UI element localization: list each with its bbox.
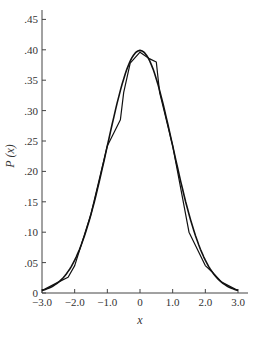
y-axis-label: P (x) [3, 144, 17, 168]
normal-curve-line [42, 50, 238, 290]
x-tick-label: −2.0 [65, 296, 85, 308]
y-tick-label: .20 [24, 165, 38, 177]
x-axis-label: x [136, 313, 143, 327]
y-tick-label: .35 [24, 74, 38, 86]
x-tick-label: 1.0 [166, 296, 180, 308]
y-tick-label: .05 [24, 257, 38, 269]
y-tick-label: .30 [24, 105, 38, 117]
y-tick-label: .45 [24, 13, 38, 25]
series-lines [42, 50, 238, 290]
y-tick-label: .40 [24, 44, 38, 56]
normal-distribution-chart: −3.0−2.0−1.001.02.03.00.05.10.15.20.25.3… [0, 0, 262, 342]
empirical-polygon-line [42, 52, 238, 290]
x-tick-label: 2.0 [198, 296, 212, 308]
y-tick-label: .15 [24, 196, 38, 208]
axes: −3.0−2.0−1.001.02.03.00.05.10.15.20.25.3… [24, 10, 248, 308]
x-tick-label: 3.0 [231, 296, 245, 308]
y-tick-label: .10 [24, 226, 38, 238]
x-tick-label: 0 [137, 296, 143, 308]
x-tick-label: −1.0 [97, 296, 117, 308]
y-tick-label: .25 [24, 135, 38, 147]
y-tick-label: 0 [33, 287, 39, 299]
